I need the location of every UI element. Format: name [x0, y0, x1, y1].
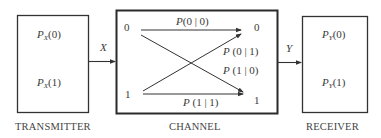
px0-label: PX(0) — [37, 28, 61, 42]
px1-label: PX(1) — [37, 76, 61, 90]
p10-label: P (1 | 0) — [223, 64, 259, 76]
y-signal-label: Y — [286, 42, 292, 54]
p11-label: P (1 | 1) — [183, 96, 219, 108]
x-signal-label: X — [100, 41, 107, 53]
transmitter-caption: TRANSMITTER — [15, 121, 91, 132]
channel-output-1: 1 — [254, 94, 260, 106]
receiver-caption: RECEIVER — [306, 121, 359, 132]
p00-label: P(0 | 0) — [176, 15, 209, 27]
channel-caption: CHANNEL — [169, 121, 221, 132]
py0-label: PY(0) — [322, 28, 345, 42]
py1-label: PY(1) — [322, 76, 345, 90]
channel-output-0: 0 — [254, 21, 260, 33]
channel-input-1: 1 — [125, 88, 131, 100]
p01-label: P (0 | 1) — [223, 45, 259, 57]
channel-input-0: 0 — [124, 21, 130, 33]
